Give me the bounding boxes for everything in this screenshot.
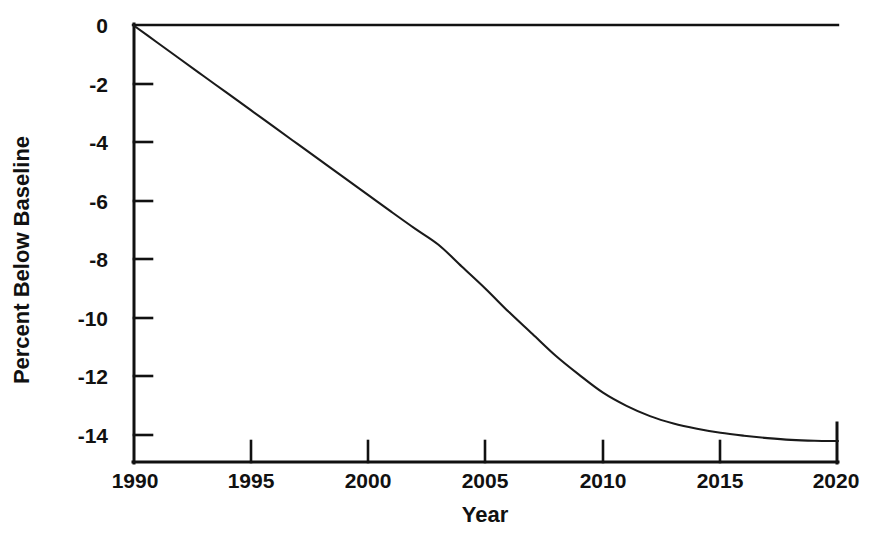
y-tick-label: -8 <box>30 249 108 270</box>
x-tick-label: 1990 <box>112 470 159 491</box>
x-tick-label: 2015 <box>697 470 744 491</box>
y-tick-label: 0 <box>30 15 108 36</box>
y-axis-title: Percent Below Baseline <box>11 110 33 410</box>
axis-frame <box>133 24 838 463</box>
y-tick-label: -2 <box>30 74 108 95</box>
x-tick-label: 1995 <box>228 470 275 491</box>
y-tick-marks <box>134 84 152 435</box>
chart-figure: 0 -2 -4 -6 -8 -10 -12 -14 1990 1995 2000… <box>0 0 881 545</box>
line-chart-canvas <box>0 0 881 545</box>
y-tick-label: -14 <box>30 425 108 446</box>
x-axis-title: Year <box>462 504 509 526</box>
y-tick-label: -10 <box>30 308 108 329</box>
x-tick-label: 2000 <box>345 470 392 491</box>
x-tick-label: 2020 <box>813 470 860 491</box>
data-series-line <box>133 25 838 441</box>
y-tick-label: -6 <box>30 191 108 212</box>
x-tick-label: 2005 <box>462 470 509 491</box>
x-tick-label: 2010 <box>580 470 627 491</box>
y-tick-label: -12 <box>30 366 108 387</box>
x-tick-marks <box>251 441 720 462</box>
y-tick-label: -4 <box>30 132 108 153</box>
